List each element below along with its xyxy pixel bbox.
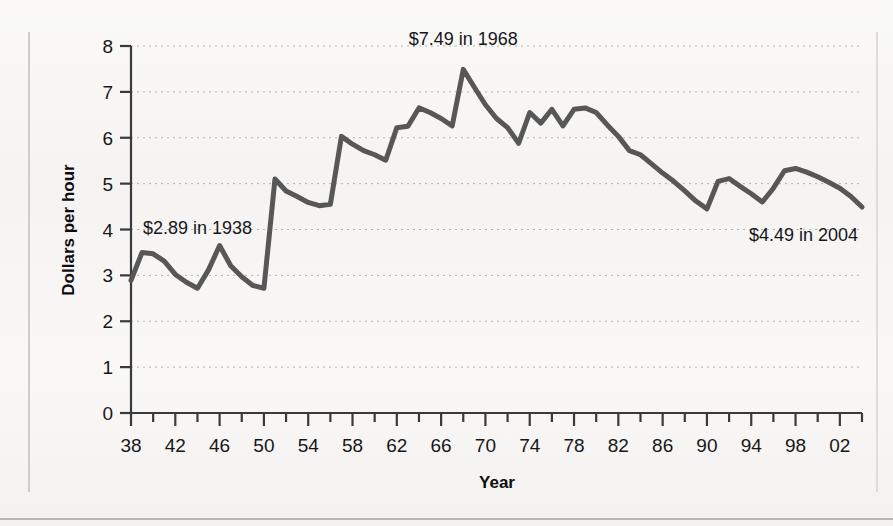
x-axis-tick-label: 82 — [608, 435, 629, 456]
x-axis-tick-label: 02 — [829, 435, 850, 456]
y-axis-tick-label: 4 — [102, 220, 113, 241]
x-axis-tick-label: 78 — [563, 435, 584, 456]
annotation-label: $4.49 in 2004 — [749, 225, 858, 245]
x-axis-tick-label: 38 — [120, 435, 141, 456]
x-axis-tick-label: 42 — [165, 435, 186, 456]
y-axis-tick-label: 5 — [102, 174, 113, 195]
x-axis-tick-label: 74 — [519, 435, 541, 456]
x-axis-tick-label: 86 — [652, 435, 673, 456]
data-series-line — [131, 69, 862, 288]
x-axis-tick-labels: 3842465054586266707478828690949802 — [120, 435, 850, 456]
x-axis-tick-label: 54 — [298, 435, 320, 456]
y-axis-tick-label: 0 — [102, 403, 113, 424]
x-axis-ticks — [131, 413, 862, 426]
x-axis-tick-label: 90 — [696, 435, 717, 456]
y-axis-tick-label: 2 — [102, 311, 113, 332]
y-gridlines — [131, 46, 862, 367]
y-axis-title: Dollars per hour — [59, 164, 78, 296]
x-axis-tick-label: 46 — [209, 435, 230, 456]
line-chart-plot: 012345678 384246505458626670747882869094… — [0, 0, 893, 526]
x-axis-tick-label: 70 — [475, 435, 496, 456]
x-axis-tick-label: 98 — [785, 435, 806, 456]
annotation-label: $2.89 in 1938 — [143, 218, 252, 238]
x-axis-tick-label: 58 — [342, 435, 363, 456]
x-axis-tick-label: 94 — [741, 435, 763, 456]
y-axis-tick-label: 8 — [102, 36, 113, 57]
chart-annotations: $2.89 in 1938$7.49 in 1968$4.49 in 2004 — [143, 29, 858, 245]
series-line-minimum-wage — [131, 69, 862, 288]
y-axis-tick-label: 6 — [102, 128, 113, 149]
y-axis-tick-label: 1 — [102, 357, 113, 378]
x-axis-tick-label: 62 — [386, 435, 407, 456]
x-axis-tick-label: 50 — [253, 435, 274, 456]
x-axis-tick-label: 66 — [431, 435, 452, 456]
chart-figure: 012345678 384246505458626670747882869094… — [0, 0, 893, 526]
x-axis-title: Year — [479, 473, 515, 492]
y-axis-tick-label: 7 — [102, 82, 113, 103]
y-axis-ticks — [120, 46, 131, 413]
y-axis-tick-label: 3 — [102, 265, 113, 286]
y-axis-tick-labels: 012345678 — [102, 36, 113, 424]
annotation-label: $7.49 in 1968 — [409, 29, 518, 49]
